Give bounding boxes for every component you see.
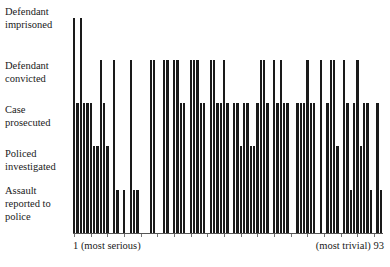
bar (246, 103, 248, 233)
x-tick (274, 234, 275, 237)
bar (333, 60, 335, 233)
bar (166, 60, 168, 233)
bar (220, 103, 222, 233)
bar (306, 60, 308, 233)
bar (96, 146, 98, 233)
x-tick (207, 234, 208, 237)
label-line: imprisoned (5, 18, 52, 31)
x-axis-end-label: (most trivial) 93 (316, 240, 384, 251)
bar (236, 103, 238, 233)
x-tick (307, 234, 308, 237)
label-line: Case (5, 103, 50, 116)
bar (150, 60, 152, 233)
y-label-reported: Assault reported to police (5, 184, 51, 223)
y-label-convicted: Defendant convicted (5, 59, 49, 85)
bar (320, 60, 322, 233)
x-tick (107, 234, 108, 237)
bar (93, 146, 95, 233)
bar (203, 103, 205, 233)
bar (73, 18, 75, 233)
bar (283, 103, 285, 233)
bar (83, 103, 85, 233)
y-label-prosecuted: Case prosecuted (5, 103, 50, 129)
bar (163, 60, 165, 233)
bar (90, 103, 92, 233)
bar (86, 103, 88, 233)
bar (210, 60, 212, 233)
bar (336, 146, 338, 233)
bar (273, 60, 275, 233)
bar (280, 60, 282, 233)
x-tick (124, 234, 125, 237)
bar (266, 103, 268, 233)
bar (303, 103, 305, 233)
bar (243, 103, 245, 233)
bar (240, 146, 242, 233)
x-tick (91, 234, 92, 237)
bar (360, 146, 362, 233)
bar (350, 190, 352, 233)
bar (100, 60, 102, 233)
bar (263, 60, 265, 233)
bar (76, 103, 78, 233)
bar (173, 60, 175, 233)
bar (370, 190, 372, 233)
bar (116, 190, 118, 233)
bar (346, 103, 348, 233)
bar (356, 60, 358, 233)
label-line: police (5, 210, 51, 223)
bar (113, 60, 115, 233)
x-tick (341, 234, 342, 237)
bar (286, 103, 288, 233)
bar (300, 103, 302, 233)
bar (310, 103, 312, 233)
bar (153, 60, 155, 233)
bar (200, 103, 202, 233)
bar (223, 60, 225, 233)
bar (226, 103, 228, 233)
bar (376, 103, 378, 233)
x-tick (324, 234, 325, 237)
bar (106, 146, 108, 233)
label-line: Policed (5, 147, 56, 160)
bar (193, 60, 195, 233)
y-label-imprisoned: Defendant imprisoned (5, 5, 52, 31)
label-line: investigated (5, 160, 56, 173)
x-axis-start-label: 1 (most serious) (73, 240, 141, 251)
bar (250, 146, 252, 233)
bar (343, 60, 345, 233)
bar (326, 103, 328, 233)
bar (216, 103, 218, 233)
bar (196, 60, 198, 233)
x-tick (291, 234, 292, 237)
bar (183, 103, 185, 233)
x-tick (141, 234, 142, 237)
x-axis-baseline (73, 233, 383, 234)
x-tick (224, 234, 225, 237)
bar (176, 60, 178, 233)
label-line: Defendant (5, 5, 52, 18)
label-line: convicted (5, 72, 49, 85)
bar (330, 60, 332, 233)
label-line: Assault (5, 184, 51, 197)
y-label-investigated: Policed investigated (5, 147, 56, 173)
x-tick (157, 234, 158, 237)
label-line: prosecuted (5, 116, 50, 129)
bar (190, 60, 192, 233)
bar (313, 103, 315, 233)
bar (213, 60, 215, 233)
x-tick (241, 234, 242, 237)
bar (276, 103, 278, 233)
x-tick (374, 234, 375, 237)
bar (130, 60, 132, 233)
x-tick (191, 234, 192, 237)
bar-plot-area (73, 0, 383, 233)
bar (256, 103, 258, 233)
bar (260, 60, 262, 233)
label-line: Defendant (5, 59, 49, 72)
bar (363, 103, 365, 233)
bar (233, 103, 235, 233)
x-tick (174, 234, 175, 237)
bar (353, 103, 355, 233)
label-line: reported to (5, 197, 51, 210)
